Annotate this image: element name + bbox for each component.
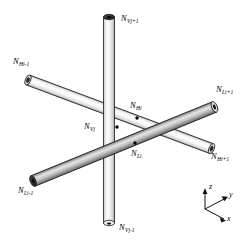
label-node-l-right: NLi+1 xyxy=(216,85,233,94)
label-node-h-right: NHi+1 xyxy=(211,152,229,161)
label-v-top-base: N xyxy=(121,13,127,23)
label-h-mid-sub: Hi xyxy=(136,105,142,111)
label-node-v-top: NVj+1 xyxy=(121,14,138,23)
rod-v-body xyxy=(104,17,115,223)
axis-z-arrowhead xyxy=(203,188,208,194)
label-l-right-sub: Li+1 xyxy=(222,89,233,95)
label-l-left-base: N xyxy=(18,185,24,195)
label-h-left-base: N xyxy=(13,56,19,66)
label-h-right-sub: Hi+1 xyxy=(217,156,229,162)
label-node-h-left: NHi-1 xyxy=(13,57,29,66)
rod-v-top-bore xyxy=(107,16,112,18)
rod-v-bottom-bore xyxy=(107,223,111,225)
label-v-mid-sub: Vj xyxy=(90,126,95,132)
label-v-top-sub: Vj+1 xyxy=(127,18,139,24)
label-node-h-mid: NHi xyxy=(130,101,141,110)
label-l-right-base: N xyxy=(216,84,222,94)
label-node-v-mid: NVj xyxy=(84,122,95,131)
rod-assembly-diagram xyxy=(0,0,250,248)
node-dot-v-mid xyxy=(115,125,118,128)
label-v-bottom-base: N xyxy=(119,222,125,232)
axis-y-line xyxy=(205,198,226,209)
label-node-v-bottom: NVj-1 xyxy=(119,223,134,232)
node-dot-h-mid xyxy=(135,116,138,119)
coordinate-axes xyxy=(203,188,228,222)
rod-v-vertical xyxy=(104,14,115,225)
node-dot-l-mid xyxy=(133,141,136,144)
axis-label-z: z xyxy=(209,183,212,191)
axis-label-x: x xyxy=(227,215,231,223)
label-l-left-sub: Li-1 xyxy=(24,190,33,196)
label-h-left-sub: Hi-1 xyxy=(19,61,29,67)
axis-x-line xyxy=(205,209,224,219)
figure-container: NVj+1 NVj NVj-1 NHi-1 NHi NHi+1 NLi-1 NL… xyxy=(0,0,250,248)
axis-y-arrowhead xyxy=(222,196,228,201)
label-l-mid-sub: Li xyxy=(137,153,142,159)
label-h-right-base: N xyxy=(211,151,217,161)
label-node-l-left: NLi-1 xyxy=(18,186,33,195)
label-v-bottom-sub: Vj-1 xyxy=(125,227,135,233)
label-h-mid-base: N xyxy=(130,100,136,110)
label-node-l-mid: NLi xyxy=(131,149,141,158)
label-l-mid-base: N xyxy=(131,148,137,158)
axis-label-y: y xyxy=(229,191,233,199)
label-v-mid-base: N xyxy=(84,121,90,131)
